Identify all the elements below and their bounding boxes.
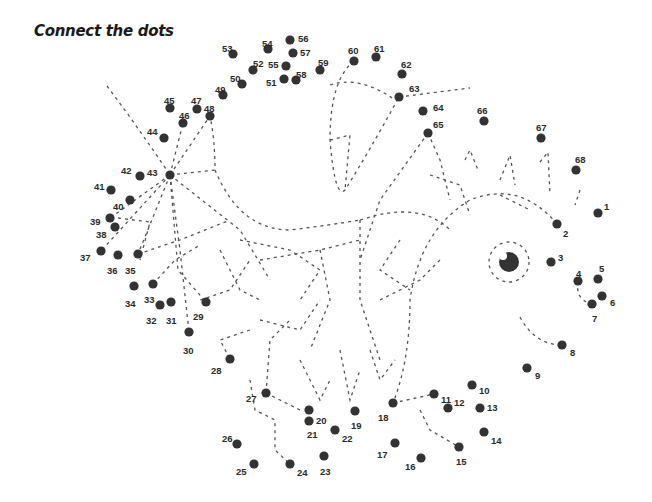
dot-1: 1 <box>593 201 610 218</box>
dot-43: 43 <box>147 167 175 180</box>
dot-number-label: 51 <box>266 77 277 88</box>
dot-number-label: 12 <box>454 397 465 408</box>
dot-35: 35 <box>125 249 143 276</box>
dot-number-label: 62 <box>401 59 412 70</box>
dot-marker <box>479 427 488 436</box>
dot-marker <box>129 281 138 290</box>
dot-number-label: 65 <box>433 119 444 130</box>
dot-marker <box>166 297 175 306</box>
dot-number-label: 25 <box>236 466 247 477</box>
dot-54: 54 <box>262 38 273 54</box>
dot-marker <box>184 327 193 336</box>
dot-27: 27 <box>246 388 271 404</box>
dot-15: 15 <box>454 442 467 467</box>
dot-number-label: 49 <box>215 84 226 95</box>
dot-number-label: 34 <box>125 298 136 309</box>
dot-marker <box>388 398 397 407</box>
dot-number-label: 57 <box>300 47 311 58</box>
dot-number-label: 2 <box>563 228 568 239</box>
dot-68: 68 <box>571 154 585 175</box>
dot-64: 64 <box>418 102 444 116</box>
dot-marker <box>390 438 399 447</box>
dot-number-label: 60 <box>348 45 359 56</box>
dot-marker <box>288 48 297 57</box>
dot-marker <box>319 451 328 460</box>
dot-number-label: 36 <box>107 265 118 276</box>
dot-59: 59 <box>315 57 328 75</box>
dot-61: 61 <box>371 43 385 62</box>
dot-marker <box>571 165 580 174</box>
dot-number-label: 21 <box>307 429 318 440</box>
dot-19: 19 <box>350 406 361 431</box>
dot-number-label: 5 <box>599 263 605 274</box>
eye <box>489 242 529 282</box>
dot-number-label: 3 <box>558 252 563 263</box>
dot-number-label: 55 <box>268 59 279 70</box>
dot-number-label: 63 <box>409 83 420 94</box>
dot-number-label: 11 <box>441 394 452 405</box>
dot-number-label: 52 <box>253 58 264 69</box>
dot-number-label: 54 <box>262 38 273 49</box>
dot-number-label: 39 <box>90 216 101 227</box>
dot-marker <box>113 250 122 259</box>
dot-number-label: 33 <box>144 294 155 305</box>
dot-14: 14 <box>479 427 502 446</box>
dot-marker <box>155 300 164 309</box>
dot-marker <box>261 388 270 397</box>
dot-number-label: 9 <box>535 370 540 381</box>
dot-65: 65 <box>423 119 444 138</box>
dot-number-label: 16 <box>405 461 416 472</box>
dot-number-label: 41 <box>94 181 105 192</box>
dot-48: 48 <box>204 103 215 121</box>
dot-62: 62 <box>397 59 411 79</box>
dot-marker <box>557 340 566 349</box>
dot-46: 46 <box>178 110 189 128</box>
dot-number-label: 4 <box>576 268 582 279</box>
dot-marker <box>125 195 134 204</box>
dot-marker <box>546 257 555 266</box>
dot-marker <box>418 106 427 115</box>
dot-number-label: 59 <box>318 57 329 68</box>
dot-number-label: 14 <box>491 435 502 446</box>
dot-marker <box>475 403 484 412</box>
dot-marker <box>423 128 432 137</box>
dot-marker <box>552 219 561 228</box>
dot-marker <box>279 74 288 83</box>
dot-marker <box>416 453 425 462</box>
dot-36: 36 <box>107 250 123 276</box>
dot-number-label: 66 <box>477 105 488 116</box>
dot-number-label: 58 <box>296 69 307 80</box>
dot-58: 58 <box>291 69 306 85</box>
dot-number-label: 20 <box>316 415 327 426</box>
dot-number-label: 48 <box>204 103 215 114</box>
dot-marker <box>479 116 488 125</box>
dot-marker <box>105 213 114 222</box>
dot-number-label: 1 <box>604 201 610 212</box>
dot-number-label: 67 <box>536 122 547 133</box>
dot-marker <box>397 69 406 78</box>
dot-8: 8 <box>557 340 575 358</box>
dot-number-label: 46 <box>179 110 190 121</box>
dot-number-label: 68 <box>575 154 586 165</box>
dot-marker <box>106 185 115 194</box>
dot-marker <box>148 279 157 288</box>
dot-number-label: 28 <box>211 365 222 376</box>
dot-number-label: 13 <box>487 402 498 413</box>
dot-number-label: 18 <box>378 412 389 423</box>
dot-53: 53 <box>222 43 238 59</box>
dot-marker <box>232 439 241 448</box>
dot-marker <box>522 363 531 372</box>
dot-number-label: 38 <box>96 229 107 240</box>
dot-number-label: 8 <box>570 347 575 358</box>
dot-marker <box>443 403 452 412</box>
dot-marker <box>304 416 313 425</box>
dot-marker <box>304 405 313 414</box>
dot-number-label: 17 <box>377 449 388 460</box>
dot-marker <box>133 249 142 258</box>
dot-11: 11 <box>429 389 451 405</box>
dot-number-label: 19 <box>351 420 362 431</box>
dot-5: 5 <box>593 263 605 284</box>
dot-number-label: 22 <box>342 433 353 444</box>
dot-marker <box>536 133 545 142</box>
dot-63: 63 <box>394 83 419 102</box>
